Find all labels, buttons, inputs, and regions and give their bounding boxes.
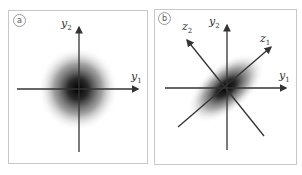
y2-label-a-sub: 2 [67,24,71,32]
y1-label-a-sub: 1 [137,77,141,85]
y2-label-b: y2 [209,15,220,30]
z2-label-b: z2 [182,20,192,35]
y1-label-a: y1 [131,70,142,85]
figure-drawing [0,0,302,175]
z1-label-b: z1 [260,32,270,47]
panel-a-badge: a [13,14,26,27]
z1-label-b-sub: 1 [266,39,270,47]
y1-label-b: y1 [279,69,290,84]
y2-label-b-sub: 2 [215,22,219,30]
panel-b-badge: b [158,12,171,25]
z2-label-b-sub: 2 [188,27,192,35]
y1-label-b-sub: 1 [285,76,289,84]
y2-label-a: y2 [61,17,72,32]
